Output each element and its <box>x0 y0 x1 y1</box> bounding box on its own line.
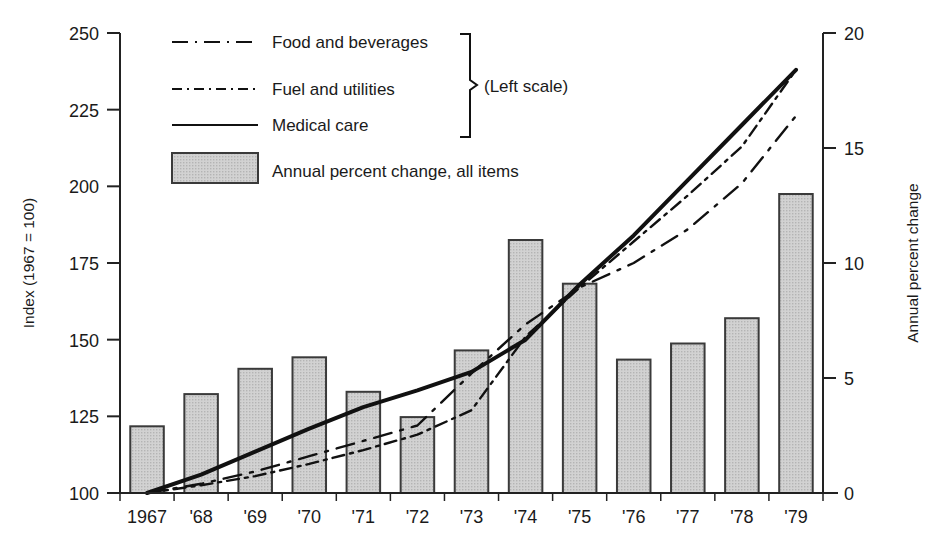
x-tick-label-1967: 1967 <box>127 507 167 527</box>
x-tick-label-69: '69 <box>243 507 266 527</box>
x-tick-label-78: '78 <box>730 507 753 527</box>
left-tick-label-100: 100 <box>69 484 99 504</box>
left-axis-ticks: 100125150175200225250 <box>69 24 120 504</box>
right-tick-label-20: 20 <box>844 24 864 44</box>
legend-label-1: Fuel and utilities <box>272 80 395 99</box>
x-tick-label-79: '79 <box>784 507 807 527</box>
right-tick-label-0: 0 <box>844 484 854 504</box>
bar-rect <box>509 240 543 493</box>
bar-69 <box>238 369 272 493</box>
bar-79 <box>779 194 813 493</box>
bar-75 <box>563 284 597 493</box>
bar-rect <box>617 360 651 493</box>
legend-item-medical-care: Medical care <box>172 116 368 135</box>
x-axis-ticks: 1967'68'69'70'71'72'73'74'75'76'77'78'79 <box>120 493 823 527</box>
x-tick-label-74: '74 <box>514 507 537 527</box>
gray-box-icon <box>172 153 258 183</box>
right-tick-label-10: 10 <box>844 254 864 274</box>
right-tick-label-5: 5 <box>844 369 854 389</box>
bar-1967 <box>130 426 164 493</box>
left-tick-label-250: 250 <box>69 24 99 44</box>
x-tick-label-73: '73 <box>460 507 483 527</box>
bar-series-annual-percent-change <box>130 194 812 493</box>
right-axis-title: Annual percent change <box>904 183 921 342</box>
right-tick-label-15: 15 <box>844 139 864 159</box>
bar-rect <box>563 284 597 493</box>
x-tick-label-75: '75 <box>568 507 591 527</box>
x-tick-label-72: '72 <box>406 507 429 527</box>
bar-rect <box>671 344 705 494</box>
bar-76 <box>617 360 651 493</box>
legend-label-3: Annual percent change, all items <box>272 162 519 181</box>
bar-77 <box>671 344 705 494</box>
right-axis-ticks: 05101520 <box>823 24 864 504</box>
legend-label-2: Medical care <box>272 116 368 135</box>
legend-label-0: Food and beverages <box>272 33 428 52</box>
legend: Food and beverages Fuel and utilities Me… <box>172 33 568 183</box>
x-tick-label-68: '68 <box>189 507 212 527</box>
brace-icon <box>460 34 477 137</box>
x-tick-label-71: '71 <box>352 507 375 527</box>
left-tick-label-200: 200 <box>69 177 99 197</box>
left-axis-title: Index (1967 = 100) <box>20 198 37 329</box>
left-tick-label-150: 150 <box>69 331 99 351</box>
left-tick-label-225: 225 <box>69 101 99 121</box>
bar-rect <box>130 426 164 493</box>
legend-brace-note: (Left scale) <box>484 77 568 96</box>
x-tick-label-70: '70 <box>298 507 321 527</box>
legend-item-fuel-and-utilities: Fuel and utilities <box>172 80 395 99</box>
bar-rect <box>725 318 759 493</box>
bar-rect <box>238 369 272 493</box>
legend-item-food-and-beverages: Food and beverages <box>172 33 428 52</box>
legend-item-annual-percent-change: Annual percent change, all items <box>172 153 519 183</box>
x-tick-label-77: '77 <box>676 507 699 527</box>
bar-rect <box>779 194 813 493</box>
x-tick-label-76: '76 <box>622 507 645 527</box>
bar-74 <box>509 240 543 493</box>
cpi-index-chart: 100125150175200225250 05101520 1967'68'6… <box>0 0 948 551</box>
bar-78 <box>725 318 759 493</box>
left-tick-label-125: 125 <box>69 407 99 427</box>
left-tick-label-175: 175 <box>69 254 99 274</box>
chart-root: 100125150175200225250 05101520 1967'68'6… <box>0 0 948 551</box>
